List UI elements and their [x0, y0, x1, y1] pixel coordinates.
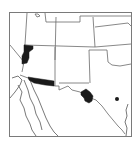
distribution-map [0, 0, 140, 144]
state-borders [10, 13, 131, 134]
kansas-nebraska-border [95, 23, 131, 27]
western-arizona-range [22, 45, 33, 64]
california-coast [10, 76, 22, 98]
northern-border [45, 13, 131, 22]
gulf-coast [125, 104, 128, 136]
lake-feature [35, 14, 40, 17]
four-corners-line [24, 44, 131, 47]
west-texas-range [81, 89, 93, 103]
colorado-kansas-border [93, 17, 95, 47]
baja-west-coast [18, 85, 36, 136]
map-canvas [0, 0, 140, 144]
map-frame [10, 13, 132, 137]
oklahoma-border [89, 50, 131, 66]
newmexico-texas-border [89, 50, 90, 83]
coastlines [10, 76, 128, 136]
central-texas-record [115, 97, 119, 101]
us-mexico-border [20, 75, 125, 134]
